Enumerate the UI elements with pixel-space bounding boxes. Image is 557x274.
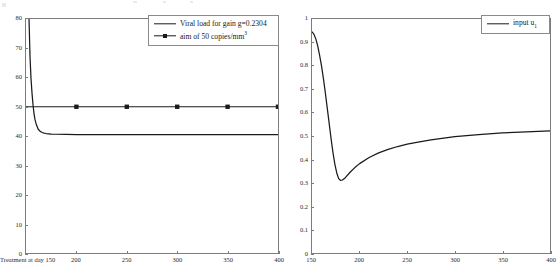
legend-label-aim: aim of 50 copies/mm3 (180, 31, 247, 40)
x-tick-label: 200 (354, 257, 364, 264)
y-tick-mark (311, 230, 314, 231)
x-tick-label: Treatment at day 150 (0, 257, 55, 264)
y-tick-label: 70 (1, 44, 22, 51)
x-tick-label: 350 (223, 257, 233, 264)
aim-marker (175, 105, 179, 109)
y-tick-mark (311, 136, 314, 137)
x-tick-label: 200 (71, 257, 81, 264)
y-tick-label: 0.6 (287, 109, 308, 116)
x-tick-mark (551, 251, 552, 254)
y-tick-label: 1 (287, 15, 308, 22)
aim-marker (225, 105, 229, 109)
y-tick-label: 0.4 (287, 156, 308, 163)
series-input-u1 (312, 32, 550, 181)
plot-lines-left (26, 19, 278, 253)
y-tick-mark (311, 42, 314, 43)
y-tick-mark (311, 89, 314, 90)
legend-label-input-subscript: 1 (534, 23, 537, 29)
plot-area-right (311, 18, 551, 254)
y-tick-label: 0.8 (287, 62, 308, 69)
legend-label-aim-text: aim of 50 copies/mm (180, 32, 244, 41)
legend-entry-input-u1[interactable]: input u1 (486, 18, 545, 30)
x-tick-label: 150 (306, 257, 316, 264)
aim-marker (74, 105, 78, 109)
legend-left[interactable]: Viral load for gain g=0.2304 aim of 50 c… (148, 15, 279, 46)
x-tick-mark (279, 251, 280, 254)
x-tick-mark (25, 251, 26, 254)
y-tick-mark (311, 183, 314, 184)
y-tick-label: 20 (1, 192, 22, 199)
x-tick-mark (455, 251, 456, 254)
legend-label-input-u1: input u1 (513, 19, 537, 29)
legend-right[interactable]: input u1 (481, 15, 550, 34)
aim-marker (125, 105, 129, 109)
y-tick-label: 0.7 (287, 86, 308, 93)
legend-marker-swatch-icon (153, 30, 177, 42)
y-tick-mark (25, 225, 28, 226)
y-tick-mark (311, 18, 314, 19)
x-tick-mark (503, 251, 504, 254)
y-tick-mark (25, 77, 28, 78)
y-tick-mark (311, 112, 314, 113)
y-tick-mark (25, 48, 28, 49)
x-tick-label: 400 (274, 257, 284, 264)
y-tick-label: 0.2 (287, 204, 308, 211)
x-tick-mark (127, 251, 128, 254)
legend-entry-aim[interactable]: aim of 50 copies/mm3 (153, 30, 274, 42)
y-tick-mark (311, 207, 314, 208)
legend-line-swatch-icon (153, 18, 177, 30)
legend-line-swatch-icon (486, 18, 510, 30)
y-tick-label: 10 (1, 221, 22, 228)
x-tick-label: 400 (546, 257, 556, 264)
x-tick-mark (311, 251, 312, 254)
x-tick-label: 350 (498, 257, 508, 264)
x-tick-mark (76, 251, 77, 254)
y-tick-mark (311, 65, 314, 66)
y-tick-label: 0.1 (287, 227, 308, 234)
y-tick-label: 40 (1, 133, 22, 140)
legend-label-aim-exponent: 3 (244, 30, 247, 36)
chart-panel-right: 00.10.20.30.40.50.60.70.80.91 1502002503… (285, 0, 557, 274)
y-tick-label: 0.3 (287, 180, 308, 187)
y-tick-mark (25, 195, 28, 196)
chart-panel-left: 01020304050607080 Treatment at day 15020… (0, 0, 285, 274)
y-tick-label: 0.5 (287, 133, 308, 140)
x-tick-label: 250 (122, 257, 132, 264)
figure-canvas: 01020304050607080 Treatment at day 15020… (0, 0, 557, 274)
y-tick-mark (25, 107, 28, 108)
x-tick-label: 300 (450, 257, 460, 264)
y-tick-label: 30 (1, 162, 22, 169)
y-tick-mark (25, 166, 28, 167)
legend-entry-viral-load[interactable]: Viral load for gain g=0.2304 (153, 18, 274, 30)
x-tick-mark (177, 251, 178, 254)
aim-marker (276, 105, 278, 109)
legend-label-viral-load: Viral load for gain g=0.2304 (180, 20, 267, 28)
x-tick-label: 300 (173, 257, 183, 264)
y-tick-mark (311, 254, 314, 255)
y-tick-label: 60 (1, 74, 22, 81)
y-tick-label: 80 (1, 15, 22, 22)
x-tick-label: 250 (402, 257, 412, 264)
y-tick-mark (25, 18, 28, 19)
y-tick-mark (25, 136, 28, 137)
y-tick-label: 50 (1, 103, 22, 110)
y-tick-mark (25, 254, 28, 255)
x-tick-mark (407, 251, 408, 254)
x-tick-mark (359, 251, 360, 254)
plot-lines-right (312, 19, 550, 253)
legend-label-input-text: input u (513, 18, 534, 27)
y-tick-label: 0 (287, 251, 308, 258)
y-tick-label: 0.9 (287, 38, 308, 45)
plot-area-left (25, 18, 279, 254)
y-tick-mark (311, 160, 314, 161)
x-tick-mark (228, 251, 229, 254)
